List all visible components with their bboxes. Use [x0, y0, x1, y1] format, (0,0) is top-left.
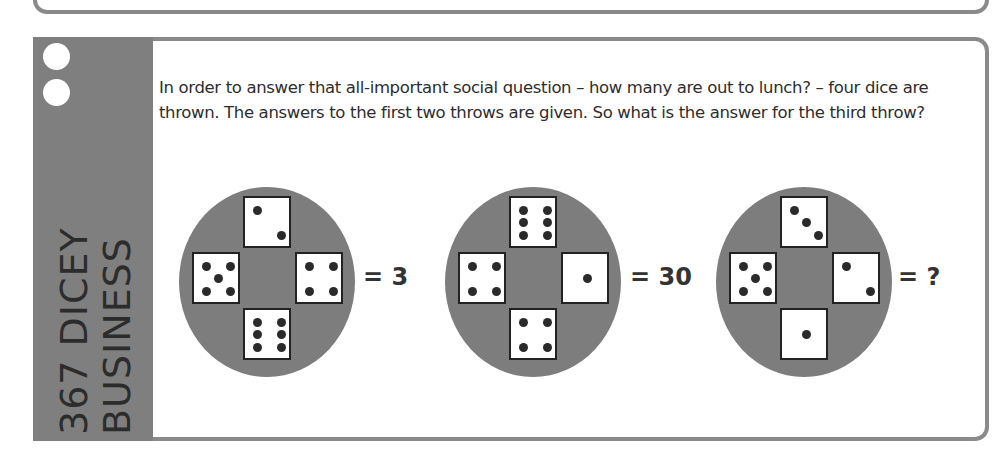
- die-pip-icon: [814, 231, 823, 240]
- die-pip-icon: [751, 274, 760, 283]
- die-pip-icon: [277, 231, 286, 240]
- puzzle-card: 367 DICEY BUSINESS In order to answer th…: [33, 37, 989, 441]
- die-pip-icon: [866, 287, 875, 296]
- die-pip-icon: [519, 343, 528, 352]
- die-pip-icon: [802, 218, 811, 227]
- die-left: [458, 252, 506, 304]
- die-top: [780, 196, 828, 248]
- puzzle-sidebar: 367 DICEY BUSINESS: [33, 37, 153, 441]
- die-pip-icon: [468, 262, 477, 271]
- previous-puzzle-card-edge: [33, 0, 989, 14]
- die-pip-icon: [543, 218, 552, 227]
- die-pip-icon: [202, 262, 211, 271]
- die-pip-icon: [277, 330, 286, 339]
- die-pip-icon: [790, 206, 799, 215]
- dice-circle: [716, 187, 892, 377]
- die-bottom: [509, 308, 557, 360]
- die-pip-icon: [253, 343, 262, 352]
- binder-hole-icon: [43, 79, 70, 106]
- die-right: [832, 252, 880, 304]
- die-top: [509, 196, 557, 248]
- die-pip-icon: [739, 287, 748, 296]
- die-pip-icon: [802, 330, 811, 339]
- die-pip-icon: [492, 287, 501, 296]
- die-pip-icon: [519, 318, 528, 327]
- puzzle-question: In order to answer that all-important so…: [159, 75, 979, 125]
- die-pip-icon: [543, 206, 552, 215]
- die-pip-icon: [468, 287, 477, 296]
- die-pip-icon: [543, 343, 552, 352]
- die-pip-icon: [253, 330, 262, 339]
- binder-hole-icon: [43, 43, 70, 70]
- die-pip-icon: [763, 287, 772, 296]
- die-pip-icon: [277, 343, 286, 352]
- throw-result: = 3: [363, 263, 408, 291]
- die-left: [729, 252, 777, 304]
- die-bottom: [780, 308, 828, 360]
- puzzle-title-line1: 367 DICEY: [55, 227, 93, 435]
- die-right: [561, 252, 609, 304]
- die-pip-icon: [492, 262, 501, 271]
- die-pip-icon: [305, 262, 314, 271]
- die-pip-icon: [519, 231, 528, 240]
- die-pip-icon: [329, 287, 338, 296]
- die-pip-icon: [739, 262, 748, 271]
- die-pip-icon: [543, 231, 552, 240]
- die-top: [243, 196, 291, 248]
- throw-result: = ?: [898, 263, 940, 291]
- die-pip-icon: [202, 287, 211, 296]
- die-bottom: [243, 308, 291, 360]
- die-pip-icon: [226, 287, 235, 296]
- die-left: [192, 252, 240, 304]
- die-pip-icon: [329, 262, 338, 271]
- die-pip-icon: [214, 274, 223, 283]
- die-pip-icon: [842, 262, 851, 271]
- die-pip-icon: [277, 318, 286, 327]
- throw-result: = 30: [630, 263, 692, 291]
- die-pip-icon: [226, 262, 235, 271]
- die-pip-icon: [519, 218, 528, 227]
- die-pip-icon: [519, 206, 528, 215]
- puzzle-title-line2: BUSINESS: [98, 237, 136, 435]
- dice-circle: [179, 187, 355, 377]
- die-pip-icon: [543, 318, 552, 327]
- dice-circle: [445, 187, 621, 377]
- die-pip-icon: [583, 274, 592, 283]
- die-right: [295, 252, 343, 304]
- die-pip-icon: [253, 318, 262, 327]
- die-pip-icon: [305, 287, 314, 296]
- die-pip-icon: [763, 262, 772, 271]
- puzzle-title: 367 DICEY BUSINESS: [33, 221, 153, 441]
- die-pip-icon: [253, 206, 262, 215]
